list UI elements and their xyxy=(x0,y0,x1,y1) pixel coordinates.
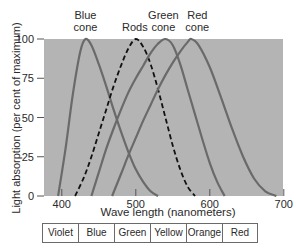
series-label: cone xyxy=(74,21,98,33)
series-label: Red xyxy=(187,9,207,21)
y-tick-label: 0 xyxy=(28,190,34,202)
y-tick-label: 50 xyxy=(22,112,34,124)
y-axis-label: Light absorption (per cent of maximum) xyxy=(10,22,22,213)
color-band-yellow: Yellow xyxy=(151,224,187,242)
series-label: cone xyxy=(151,21,175,33)
series-label: Blue xyxy=(74,9,96,21)
color-band-violet: Violet xyxy=(43,224,79,242)
series-label: cone xyxy=(185,21,209,33)
series-label: Green xyxy=(148,9,179,21)
series-label: Rods xyxy=(122,21,148,33)
color-band-orange: Orange xyxy=(187,224,223,242)
color-band-blue: Blue xyxy=(79,224,115,242)
y-tick-label: 25 xyxy=(22,151,34,163)
color-band-green: Green xyxy=(115,224,151,242)
x-tick-label: 400 xyxy=(53,198,71,210)
series-labels: BlueconeRodsGreenconeRedcone xyxy=(74,9,210,33)
x-tick-label: 700 xyxy=(275,198,293,210)
color-band-table: VioletBlueGreenYellowOrangeRed xyxy=(42,223,258,243)
plot-area xyxy=(44,39,283,196)
absorption-chart: 0255075100400500600700 BlueconeRodsGreen… xyxy=(0,0,296,250)
x-axis-label: Wave length (nanometers) xyxy=(100,206,235,218)
color-band-red: Red xyxy=(223,224,257,242)
y-tick-label: 75 xyxy=(22,72,34,84)
